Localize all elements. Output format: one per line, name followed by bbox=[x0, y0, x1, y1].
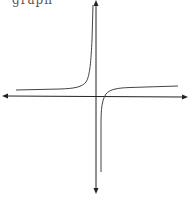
y-axis-down-arrow-icon bbox=[94, 188, 99, 194]
left-branch-curve bbox=[16, 5, 93, 90]
x-axis-left-arrow-icon bbox=[2, 94, 8, 99]
function-graph bbox=[0, 0, 190, 197]
x-axis-right-arrow-icon bbox=[182, 95, 188, 100]
x-axis bbox=[2, 94, 188, 100]
y-axis-up-arrow-icon bbox=[94, 0, 99, 6]
right-branch-curve bbox=[101, 86, 178, 172]
